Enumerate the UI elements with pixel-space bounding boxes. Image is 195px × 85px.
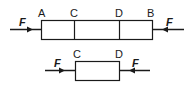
force-label-left-top: F: [19, 16, 26, 28]
label-d-top: D: [115, 7, 123, 19]
label-b: B: [147, 7, 154, 19]
top-bar-group: A C D B F F: [10, 7, 184, 40]
label-d-bottom: D: [115, 48, 123, 60]
label-c-bottom: C: [73, 48, 81, 60]
label-a: A: [38, 7, 46, 19]
label-c-top: C: [70, 7, 78, 19]
force-label-right-bottom: F: [132, 57, 139, 69]
bar-compression-diagram: A C D B F F C D F F: [0, 0, 195, 85]
force-label-right-top: F: [166, 16, 173, 28]
force-label-left-bottom: F: [54, 57, 61, 69]
bottom-segment-group: C D F F: [45, 48, 150, 81]
segment-cd: [76, 62, 120, 81]
bar-ab: [42, 21, 153, 40]
